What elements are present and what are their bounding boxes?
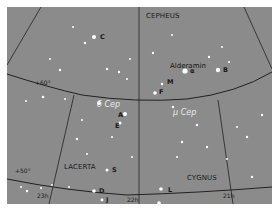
ra-21h-line [218, 100, 233, 204]
star-label: L [168, 187, 172, 194]
star-label: E [115, 123, 119, 130]
ra-23h-line [49, 95, 74, 204]
variable-star-delta-cep: δ Cep [97, 101, 120, 109]
stars [20, 26, 263, 204]
star-label: C [100, 34, 105, 41]
ra-label-21h: 21h [223, 193, 234, 199]
ra-label-23h: 23h [37, 193, 48, 199]
star-label: F [159, 89, 163, 96]
star-label: B [223, 67, 228, 74]
star-label: α [190, 68, 194, 75]
constellation-label-lacerta: LACERTA [64, 164, 96, 171]
dec-label-60: +60° [35, 80, 51, 86]
dec-label-50: +50° [15, 168, 31, 174]
dec-60-line [7, 72, 272, 100]
ra-label-22h: 22h [127, 197, 138, 203]
constellation-label-cepheus: CEPHEUS [146, 13, 180, 20]
star-label: D [99, 188, 104, 195]
star-name-alderamin: Alderamin [170, 63, 206, 70]
constellation-label-cygnus: CYGNUS [187, 175, 217, 182]
boundary-line [244, 7, 272, 69]
star-chart: CEPHEUS LACERTA CYGNUS Alderamin δ Cep μ… [7, 7, 272, 204]
boundary-line [7, 7, 41, 65]
star-label: A [118, 112, 123, 119]
star-label: S [112, 167, 117, 174]
chart-lines [7, 7, 272, 204]
star-label: M [167, 79, 173, 86]
star-label: J [106, 197, 108, 204]
variable-star-mu-cep: μ Cep [173, 109, 196, 117]
